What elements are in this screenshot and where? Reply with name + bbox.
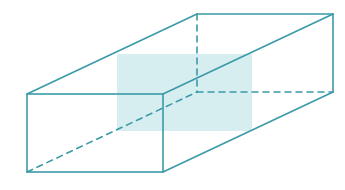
hidden-edge-depth xyxy=(27,92,197,172)
prism-diagram xyxy=(0,0,345,190)
